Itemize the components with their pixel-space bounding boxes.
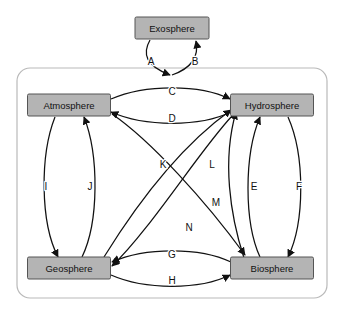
- node-hydrosphere-label: Hydrosphere: [245, 100, 299, 111]
- edge-label-H: H: [168, 275, 175, 286]
- node-geosphere-label: Geosphere: [45, 263, 92, 274]
- node-exosphere-label: Exosphere: [149, 23, 194, 34]
- spheres-diagram: Exosphere Atmosphere Hydrosphere Geosphe…: [0, 0, 344, 313]
- node-geosphere[interactable]: Geosphere: [28, 257, 111, 279]
- edge-label-G: G: [168, 249, 176, 260]
- edge-label-N: N: [185, 222, 192, 233]
- diagram-canvas: Exosphere Atmosphere Hydrosphere Geosphe…: [0, 0, 344, 313]
- edge-label-J: J: [88, 181, 93, 192]
- edge-label-M: M: [212, 197, 220, 208]
- edge-label-D: D: [168, 113, 175, 124]
- node-atmosphere[interactable]: Atmosphere: [28, 94, 111, 116]
- edge-label-C: C: [168, 86, 175, 97]
- node-atmosphere-label: Atmosphere: [43, 100, 94, 111]
- node-exosphere[interactable]: Exosphere: [135, 17, 209, 39]
- edge-label-L: L: [209, 159, 215, 170]
- edge-label-B: B: [192, 56, 199, 67]
- edge-label-K: K: [160, 159, 167, 170]
- edge-label-A: A: [148, 56, 155, 67]
- edge-label-E: E: [251, 181, 258, 192]
- node-biosphere-label: Biosphere: [251, 263, 294, 274]
- edge-label-F: F: [296, 181, 302, 192]
- edge-label-I: I: [45, 181, 48, 192]
- node-biosphere[interactable]: Biosphere: [231, 257, 314, 279]
- node-hydrosphere[interactable]: Hydrosphere: [231, 94, 314, 116]
